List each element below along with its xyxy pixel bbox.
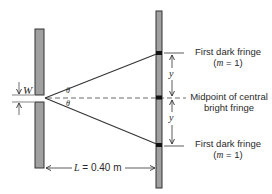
slit-width-symbol: W <box>23 85 32 96</box>
top-fringe-marker <box>156 51 162 55</box>
top-fringe-eq: = 1) <box>223 57 242 68</box>
distance-value: = 0.40 m <box>80 162 122 173</box>
slit-barrier-top <box>35 29 44 95</box>
bottom-fringe-order: (m = 1) <box>186 149 270 161</box>
y-label-bottom: y <box>169 113 173 123</box>
angle-theta-bottom: θ <box>66 100 70 108</box>
center-fringe-title: Midpoint of central <box>186 91 272 102</box>
top-fringe-order: (m = 1) <box>186 57 270 69</box>
bottom-fringe-label: First dark fringe (m = 1) <box>186 138 270 161</box>
y-label-top: y <box>169 69 173 79</box>
center-fringe-subtitle: bright fringe <box>186 102 272 113</box>
slit-barrier-bottom <box>35 102 44 168</box>
bottom-fringe-eq: = 1) <box>223 149 242 160</box>
ray-to-bottom-dark-fringe <box>45 98 159 145</box>
distance-label: L = 0.40 m <box>74 162 122 173</box>
top-fringe-title: First dark fringe <box>186 46 270 57</box>
bottom-fringe-title: First dark fringe <box>186 138 270 149</box>
single-slit-diagram: First dark fringe (m = 1) Midpoint of ce… <box>0 0 272 194</box>
center-fringe-marker <box>156 96 162 100</box>
top-fringe-label: First dark fringe (m = 1) <box>186 46 270 69</box>
ray-to-top-dark-fringe <box>45 53 159 98</box>
center-fringe-label: Midpoint of central bright fringe <box>186 91 272 113</box>
bottom-fringe-marker <box>156 143 162 147</box>
angle-theta-top: θ <box>66 87 70 95</box>
